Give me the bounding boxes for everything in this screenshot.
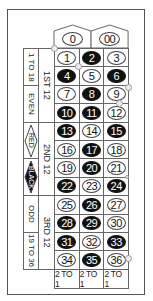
number-pocket-11[interactable]: 11 (79, 103, 105, 122)
number-pocket-25[interactable]: 25 (54, 195, 80, 214)
pocket-label: 00 (99, 32, 120, 46)
outside-bet-label: 19 TO 36 (27, 234, 36, 267)
pocket-number: 27 (107, 198, 126, 212)
pocket-number: 10 (57, 106, 76, 120)
outside-bet-label: ODD (27, 205, 36, 223)
zero-pocket-00[interactable]: 00 (91, 30, 128, 48)
pocket-number: 21 (107, 161, 126, 175)
dozen-bet-3[interactable]: 3RD 12 (38, 195, 55, 270)
column-bet-3[interactable]: 2 TO 1 (103, 269, 129, 289)
pocket-number: 19 (57, 161, 76, 175)
column-bet-label: 2 TO 1 (104, 269, 128, 289)
column-bet-label: 2 TO 1 (55, 269, 79, 289)
column-bet-1[interactable]: 2 TO 1 (54, 269, 80, 289)
number-pocket-14[interactable]: 14 (79, 122, 105, 141)
number-pocket-19[interactable]: 19 (54, 158, 80, 177)
outside-bet-label: 1 TO 18 (27, 53, 36, 82)
pocket-number: 3 (107, 51, 126, 65)
pocket-number: 5 (82, 69, 101, 83)
outside-bet-red[interactable]: RED (23, 122, 39, 160)
pocket-number: 31 (57, 235, 76, 249)
number-pocket-17[interactable]: 17 (79, 140, 105, 159)
number-pocket-10[interactable]: 10 (54, 103, 80, 122)
dozen-bet-1[interactable]: 1ST 12 (38, 48, 55, 123)
outside-bet-1-to-18[interactable]: 1 TO 18 (23, 48, 39, 86)
dozen-bet-label: 2ND 12 (42, 144, 52, 175)
number-pocket-16[interactable]: 16 (54, 140, 80, 159)
pocket-number: 33 (107, 235, 126, 249)
pocket-number: 13 (57, 124, 76, 138)
number-pocket-33[interactable]: 33 (103, 232, 129, 251)
outside-bet-black[interactable]: BLACK (23, 158, 39, 196)
number-pocket-27[interactable]: 27 (103, 195, 129, 214)
pocket-number: 7 (57, 87, 76, 101)
pocket-number: 22 (57, 179, 76, 193)
pocket-number: 35 (82, 253, 101, 267)
number-pocket-7[interactable]: 7 (54, 85, 80, 104)
chip-marker[interactable] (51, 45, 58, 52)
pocket-number: 34 (57, 253, 76, 267)
number-pocket-20[interactable]: 20 (79, 158, 105, 177)
number-pocket-6[interactable]: 6 (103, 66, 129, 85)
number-pocket-24[interactable]: 24 (103, 177, 129, 196)
pocket-number: 18 (107, 143, 126, 157)
number-pocket-22[interactable]: 22 (54, 177, 80, 196)
pocket-number: 20 (82, 161, 101, 175)
dozen-bet-2[interactable]: 2ND 12 (38, 122, 55, 197)
column-bet-label: 2 TO 1 (80, 269, 104, 289)
dozen-bet-label: 3RD 12 (42, 217, 52, 248)
number-pocket-23[interactable]: 23 (79, 177, 105, 196)
number-pocket-5[interactable]: 5 (79, 66, 105, 85)
pocket-number: 29 (82, 216, 101, 230)
pocket-number: 8 (82, 87, 101, 101)
pocket-number: 12 (107, 106, 126, 120)
number-pocket-35[interactable]: 35 (79, 250, 105, 269)
number-pocket-32[interactable]: 32 (79, 232, 105, 251)
pocket-number: 11 (82, 106, 101, 120)
pocket-number: 17 (82, 143, 101, 157)
outside-bet-even[interactable]: EVEN (23, 85, 39, 123)
pocket-number: 9 (107, 87, 126, 101)
outside-bet-label: EVEN (27, 93, 36, 115)
pocket-number: 26 (82, 198, 101, 212)
pocket-number: 28 (57, 216, 76, 230)
number-pocket-13[interactable]: 13 (54, 122, 80, 141)
pocket-number: 15 (107, 124, 126, 138)
outside-bet-label: RED (28, 133, 35, 148)
pocket-number: 24 (107, 179, 126, 193)
pocket-number: 4 (57, 69, 76, 83)
outside-bet-19-to-36[interactable]: 19 TO 36 (23, 232, 39, 270)
pocket-number: 30 (107, 216, 126, 230)
pocket-number: 14 (82, 124, 101, 138)
number-pocket-31[interactable]: 31 (54, 232, 80, 251)
number-pocket-3[interactable]: 3 (103, 48, 129, 67)
pocket-number: 6 (107, 69, 126, 83)
outside-bet-odd[interactable]: ODD (23, 195, 39, 233)
chip-marker[interactable] (125, 84, 132, 91)
number-pocket-34[interactable]: 34 (54, 250, 80, 269)
number-pocket-26[interactable]: 26 (79, 195, 105, 214)
number-pocket-29[interactable]: 29 (79, 214, 105, 233)
pocket-number: 2 (82, 51, 101, 65)
number-pocket-8[interactable]: 8 (79, 85, 105, 104)
pocket-number: 32 (82, 235, 101, 249)
pocket-number: 23 (82, 179, 101, 193)
number-pocket-2[interactable]: 2 (79, 48, 105, 67)
zero-pocket-0[interactable]: 0 (54, 30, 91, 48)
number-pocket-15[interactable]: 15 (103, 122, 129, 141)
pocket-label: 0 (62, 32, 83, 46)
column-bet-2[interactable]: 2 TO 1 (79, 269, 105, 289)
number-pocket-28[interactable]: 28 (54, 214, 80, 233)
pocket-number: 25 (57, 198, 76, 212)
pocket-number: 16 (57, 143, 76, 157)
chip-marker[interactable] (125, 255, 132, 262)
dozen-bet-label: 1ST 12 (42, 71, 52, 100)
chip-marker[interactable] (125, 175, 129, 179)
outside-bet-label: BLACK (28, 166, 35, 189)
number-pocket-30[interactable]: 30 (103, 214, 129, 233)
pocket-number: 36 (107, 253, 126, 267)
pocket-number: 1 (57, 51, 76, 65)
number-pocket-18[interactable]: 18 (103, 140, 129, 159)
